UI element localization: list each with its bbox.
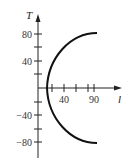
x-tick-label-90: 90 bbox=[89, 94, 99, 105]
y-tick-label-neg40: −40 bbox=[16, 110, 32, 121]
y-axis-arrow-icon bbox=[36, 14, 41, 22]
y-tick-label-40: 40 bbox=[22, 56, 32, 67]
y-tick-label-neg80: −80 bbox=[16, 137, 32, 148]
x-tick-label-40: 40 bbox=[59, 94, 69, 105]
y-tick-label-80: 80 bbox=[22, 29, 32, 40]
y-axis-label: T bbox=[26, 9, 33, 21]
x-axis-label: l bbox=[118, 93, 121, 105]
chart: T l 80 40 −40 −80 40 90 bbox=[0, 0, 130, 160]
x-axis-arrow-icon bbox=[114, 86, 122, 91]
